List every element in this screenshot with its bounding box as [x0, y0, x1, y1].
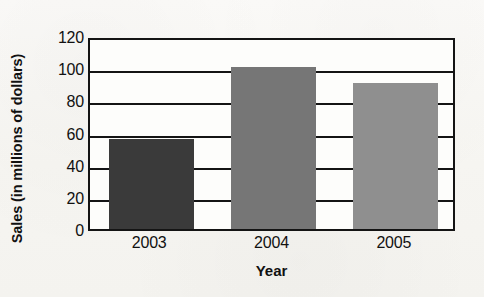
- y-axis-title: Sales (in millions of dollars): [0, 0, 40, 297]
- x-axis-tick-labels: 200320042005: [88, 234, 455, 260]
- x-axis-tick-label: 2003: [88, 234, 210, 252]
- y-axis-tick-label: 80: [38, 93, 84, 111]
- y-axis-tick-label: 0: [38, 222, 84, 240]
- bar-2003: [109, 139, 194, 229]
- y-axis-tick-label: 40: [38, 158, 84, 176]
- bar-2005: [353, 83, 438, 229]
- x-axis-title: Year: [88, 262, 455, 279]
- plot-area: [88, 38, 455, 231]
- y-axis-title-text: Sales (in millions of dollars): [9, 54, 31, 244]
- x-axis-tick-label: 2004: [210, 234, 332, 252]
- y-axis-tick-label: 60: [38, 126, 84, 144]
- y-axis-tick-label: 100: [38, 61, 84, 79]
- bar-chart-screenshot: Sales (in millions of dollars) 120100806…: [0, 0, 484, 297]
- y-axis-tick-labels: 120100806040200: [36, 0, 84, 297]
- y-axis-tick-label: 120: [38, 29, 84, 47]
- x-axis-tick-label: 2005: [333, 234, 455, 252]
- y-axis-tick-label: 20: [38, 190, 84, 208]
- bars-group: [90, 40, 453, 229]
- bar-2004: [231, 67, 316, 229]
